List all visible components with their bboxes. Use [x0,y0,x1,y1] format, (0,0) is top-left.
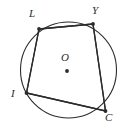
center-label-O: O [61,52,69,63]
vertex-dot-L [37,27,41,31]
geometry-figure: L Y C I O [0,0,132,135]
vertex-label-C: C [105,112,112,123]
vertex-dot-Y [91,22,95,26]
vertex-label-L: L [29,8,35,19]
segment-CI [27,93,106,111]
vertex-label-I: I [11,88,15,99]
quadrilateral-LYCI [27,24,106,111]
vertex-label-Y: Y [92,5,98,16]
center-dot [65,69,69,73]
vertex-dot-I [25,91,29,95]
